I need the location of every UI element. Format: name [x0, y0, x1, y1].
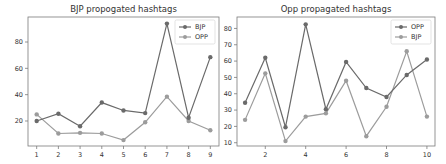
y-tick-label: 30: [224, 106, 232, 114]
data-point-marker: [405, 49, 409, 53]
data-point-marker: [283, 125, 287, 129]
data-point-marker: [263, 56, 267, 60]
data-point-marker: [324, 107, 328, 111]
series-line-bjp: [245, 51, 427, 141]
legend: OPPBJP: [391, 20, 431, 44]
y-tick-label: 60: [224, 57, 232, 65]
opp-propagated-hashtags-chart: Opp propagated hashtags24681010203040506…: [0, 0, 446, 164]
data-point-marker: [283, 139, 287, 143]
data-point-marker: [425, 114, 429, 118]
legend-label: BJP: [411, 33, 421, 41]
data-point-marker: [384, 95, 388, 99]
data-point-marker: [324, 111, 328, 115]
x-tick-label: 6: [344, 151, 348, 159]
data-point-marker: [303, 114, 307, 118]
x-tick-label: 2: [263, 151, 267, 159]
data-point-marker: [405, 73, 409, 77]
data-point-marker: [344, 78, 348, 82]
data-point-marker: [263, 71, 267, 75]
x-tick-label: 4: [304, 151, 308, 159]
legend-marker-icon: [399, 35, 403, 39]
data-point-marker: [243, 101, 247, 105]
x-tick-label: 8: [384, 151, 388, 159]
data-point-marker: [344, 60, 348, 64]
x-tick-label: 10: [423, 151, 431, 159]
y-tick-label: 10: [224, 139, 232, 147]
legend-label: OPP: [411, 23, 424, 31]
y-tick-label: 50: [224, 74, 232, 82]
y-tick-label: 70: [224, 41, 232, 49]
data-point-marker: [243, 118, 247, 122]
data-point-marker: [303, 22, 307, 26]
data-point-marker: [384, 105, 388, 109]
legend-marker-icon: [399, 25, 403, 29]
y-tick-label: 40: [224, 90, 232, 98]
data-point-marker: [364, 134, 368, 138]
y-tick-label: 20: [224, 123, 232, 131]
chart-title: Opp propagated hashtags: [281, 4, 392, 14]
data-point-marker: [425, 57, 429, 61]
chart-svg: Opp propagated hashtags24681010203040506…: [0, 0, 446, 164]
y-tick-label: 80: [224, 25, 232, 33]
data-point-marker: [364, 86, 368, 90]
